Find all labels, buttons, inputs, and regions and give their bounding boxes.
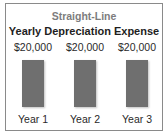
- bar-group-year-3: $20,000 Year 3: [111, 4, 163, 132]
- value-label: $20,000: [111, 41, 163, 53]
- category-label: Year 2: [59, 113, 111, 125]
- chart-frame: Straight-Line Yearly Depreciation Expens…: [5, 3, 163, 131]
- bar: [74, 60, 96, 107]
- bar-group-year-1: $20,000 Year 1: [7, 4, 59, 132]
- value-label: $20,000: [7, 41, 59, 53]
- category-label: Year 1: [7, 113, 59, 125]
- bar: [126, 60, 148, 107]
- bar: [22, 60, 44, 107]
- bar-group-year-2: $20,000 Year 2: [59, 4, 111, 132]
- value-label: $20,000: [59, 41, 111, 53]
- category-label: Year 3: [111, 113, 163, 125]
